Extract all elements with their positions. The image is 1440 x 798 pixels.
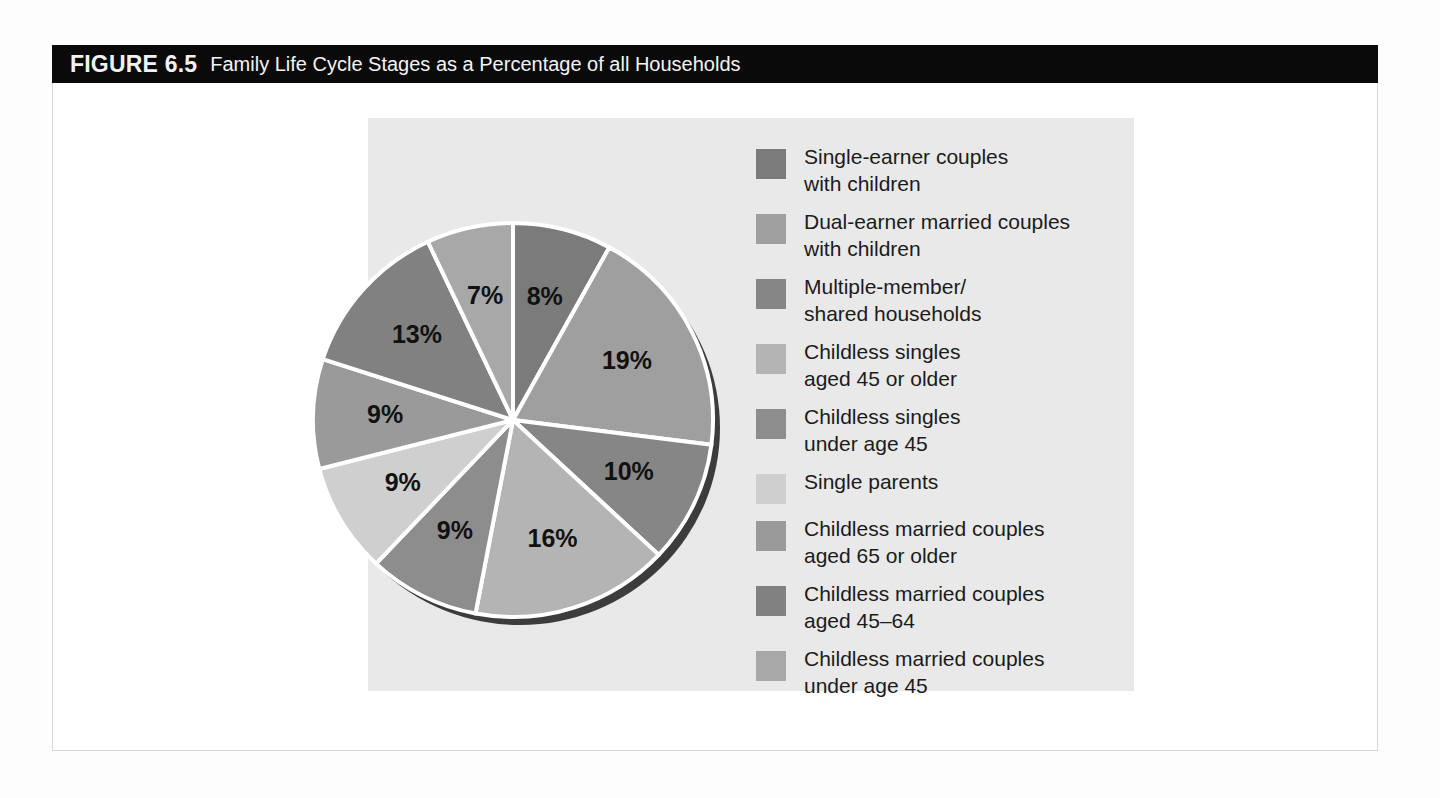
legend-swatch-icon — [756, 149, 786, 179]
legend-item-label: Single parents — [804, 468, 938, 495]
legend-item: Childless married couples aged 65 or old… — [756, 515, 1116, 569]
legend-item: Single parents — [756, 468, 1116, 504]
pie-slice-label: 13% — [392, 320, 442, 348]
legend-swatch-icon — [756, 474, 786, 504]
legend-swatch-icon — [756, 521, 786, 551]
legend-item-label: Multiple-member/ shared households — [804, 273, 981, 327]
pie-slice-label: 9% — [385, 468, 421, 496]
legend-item-label: Childless singles under age 45 — [804, 403, 960, 457]
legend-swatch-icon — [756, 344, 786, 374]
legend-swatch-icon — [756, 279, 786, 309]
legend-item: Dual-earner married couples with childre… — [756, 208, 1116, 262]
legend-item-label: Childless married couples aged 45–64 — [804, 580, 1044, 634]
legend-item: Childless singles aged 45 or older — [756, 338, 1116, 392]
legend-swatch-icon — [756, 409, 786, 439]
legend-item-label: Dual-earner married couples with childre… — [804, 208, 1070, 262]
legend-swatch-icon — [756, 651, 786, 681]
pie-chart: 8%19%10%16%9%9%9%13%7% — [313, 210, 733, 630]
figure-title: Family Life Cycle Stages as a Percentage… — [210, 53, 740, 76]
legend-swatch-icon — [756, 214, 786, 244]
legend-swatch-icon — [756, 586, 786, 616]
legend-item-label: Childless married couples under age 45 — [804, 645, 1044, 699]
pie-slice-label: 16% — [528, 524, 578, 552]
legend-item: Multiple-member/ shared households — [756, 273, 1116, 327]
figure-number: FIGURE 6.5 — [70, 51, 197, 78]
pie-slice-label: 7% — [467, 281, 503, 309]
pie-slice-label: 8% — [527, 282, 563, 310]
legend-item: Childless married couples aged 45–64 — [756, 580, 1116, 634]
pie-slice-label: 10% — [604, 457, 654, 485]
legend-item: Childless married couples under age 45 — [756, 645, 1116, 699]
legend-item: Childless singles under age 45 — [756, 403, 1116, 457]
pie-slice-label: 9% — [437, 516, 473, 544]
figure-header-bar: FIGURE 6.5 Family Life Cycle Stages as a… — [52, 45, 1378, 83]
pie-slice-label: 9% — [367, 400, 403, 428]
chart-panel: 8%19%10%16%9%9%9%13%7% Single-earner cou… — [368, 118, 1134, 691]
legend-item-label: Childless married couples aged 65 or old… — [804, 515, 1044, 569]
legend-item: Single-earner couples with children — [756, 143, 1116, 197]
legend: Single-earner couples with childrenDual-… — [756, 143, 1116, 710]
pie-chart-svg: 8%19%10%16%9%9%9%13%7% — [313, 210, 733, 630]
legend-item-label: Childless singles aged 45 or older — [804, 338, 960, 392]
legend-item-label: Single-earner couples with children — [804, 143, 1008, 197]
pie-slice-label: 19% — [602, 346, 652, 374]
